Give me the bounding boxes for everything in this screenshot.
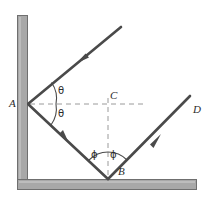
angle-label-phi-right: ϕ bbox=[110, 150, 117, 160]
ray-a-to-b-arrowhead bbox=[60, 130, 70, 144]
construction-dashed-lines bbox=[30, 98, 145, 176]
angle-label-phi-left: ϕ bbox=[91, 150, 98, 160]
figure-canvas bbox=[0, 0, 213, 202]
angle-label-theta-upper: θ bbox=[58, 86, 64, 96]
angle-label-theta-lower: θ bbox=[58, 109, 64, 119]
point-label-d: D bbox=[193, 104, 201, 115]
point-label-a: A bbox=[9, 98, 16, 109]
mirror-walls bbox=[18, 16, 197, 190]
incoming-ray-line bbox=[29, 27, 122, 104]
horizontal-mirror-wall bbox=[18, 180, 197, 190]
point-label-b: B bbox=[118, 166, 125, 177]
vertical-mirror-wall bbox=[18, 16, 28, 181]
arc-theta-lower bbox=[51, 104, 56, 125]
arc-theta-upper bbox=[52, 83, 57, 105]
ray-a-to-b-line bbox=[29, 105, 109, 180]
optics-reflection-figure: A C D B θ θ ϕ ϕ bbox=[0, 0, 213, 202]
point-label-c: C bbox=[110, 90, 117, 101]
